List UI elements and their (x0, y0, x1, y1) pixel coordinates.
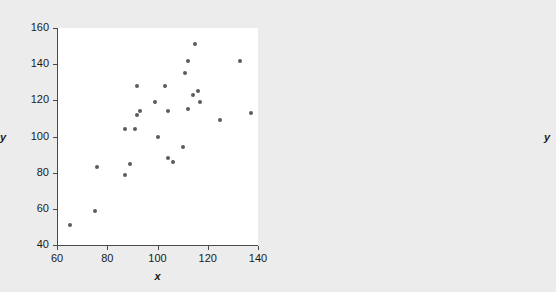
scatter-point (191, 93, 195, 97)
x-tick-label: 80 (87, 253, 127, 264)
y-tick-label: 40 (17, 239, 49, 250)
scatter-point (156, 135, 160, 139)
scatter-point (186, 59, 190, 63)
x-tick-mark (107, 246, 108, 250)
y-tick-mark (53, 64, 57, 65)
scatter-panel-left: 4060801001201401606080100120140 y x (0, 0, 278, 292)
scatter-point (181, 145, 185, 149)
y-axis-line-left (57, 28, 58, 245)
y-tick-label: 140 (17, 58, 49, 69)
x-axis-title-left: x (148, 271, 168, 282)
y-tick-mark (53, 173, 57, 174)
y-axis-title-right: y (544, 132, 550, 143)
y-tick-mark (53, 209, 57, 210)
x-tick-mark (208, 246, 209, 250)
y-tick-label: 80 (17, 167, 49, 178)
y-tick-mark (53, 28, 57, 29)
y-tick-label: 100 (17, 131, 49, 142)
y-tick-label: 60 (17, 203, 49, 214)
y-tick-label: 160 (17, 22, 49, 33)
figure-container: 4060801001201401606080100120140 y x 0501… (0, 0, 556, 292)
scatter-panel-right: 050100150200250050100150200250 y x (278, 0, 556, 292)
scatter-point (68, 223, 72, 227)
y-axis-title-left: y (0, 132, 6, 143)
y-tick-mark (53, 100, 57, 101)
scatter-point (163, 84, 167, 88)
scatter-point (128, 162, 132, 166)
scatter-point (123, 173, 127, 177)
y-tick-label: 120 (17, 94, 49, 105)
scatter-point (249, 111, 253, 115)
x-tick-label: 60 (37, 253, 77, 264)
x-tick-label: 120 (188, 253, 228, 264)
x-tick-label: 100 (138, 253, 178, 264)
y-tick-mark (53, 137, 57, 138)
scatter-point (166, 156, 170, 160)
scatter-point (171, 160, 175, 164)
scatter-point (93, 209, 97, 213)
scatter-point (166, 109, 170, 113)
x-tick-mark (258, 246, 259, 250)
x-tick-label: 140 (238, 253, 278, 264)
x-tick-mark (57, 246, 58, 250)
x-tick-mark (158, 246, 159, 250)
